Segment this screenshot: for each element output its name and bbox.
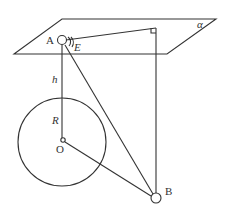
plane-alpha (14, 19, 216, 54)
point-o-label: O (56, 143, 64, 155)
radius-label: R (51, 114, 59, 126)
point-b-label: B (165, 185, 172, 197)
point-a-marker (58, 36, 67, 45)
point-o-marker (61, 138, 65, 142)
point-e-label: E (73, 41, 81, 53)
geometry-diagram: α A E h R O B (0, 0, 229, 212)
point-b-marker (151, 193, 161, 203)
point-a-label: A (46, 34, 54, 46)
plane-label: α (197, 18, 203, 30)
segment-a-to-foot (66, 28, 156, 40)
angle-e-arc-2 (71, 37, 73, 47)
angle-e-arc (68, 37, 71, 46)
height-label: h (52, 73, 58, 85)
segment-ab (65, 45, 153, 194)
